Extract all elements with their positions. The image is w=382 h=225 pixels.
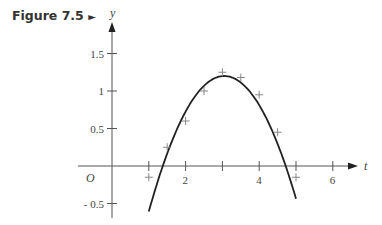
- x-tick-label: 6: [330, 174, 336, 186]
- x-tick-label: 2: [183, 174, 189, 186]
- y-tick-label: - 0.5: [84, 198, 105, 210]
- y-tick-label: 1: [99, 85, 105, 97]
- x-axis-label: t: [364, 159, 368, 173]
- chart: tyO246- 0.50.511.5: [0, 0, 382, 225]
- y-tick-label: 1.5: [90, 48, 104, 60]
- x-tick-label: 4: [256, 174, 262, 186]
- fitted-curve: [149, 76, 296, 212]
- origin-label: O: [86, 171, 95, 185]
- x-axis-arrow-icon: [348, 163, 358, 170]
- data-point-plus-icon: [145, 173, 153, 181]
- data-point-plus-icon: [255, 91, 263, 99]
- y-tick-label: 0.5: [90, 123, 104, 135]
- data-point-plus-icon: [218, 68, 226, 76]
- data-point-plus-icon: [292, 173, 300, 181]
- y-axis-label: y: [109, 6, 116, 20]
- y-axis-arrow-icon: [109, 22, 116, 32]
